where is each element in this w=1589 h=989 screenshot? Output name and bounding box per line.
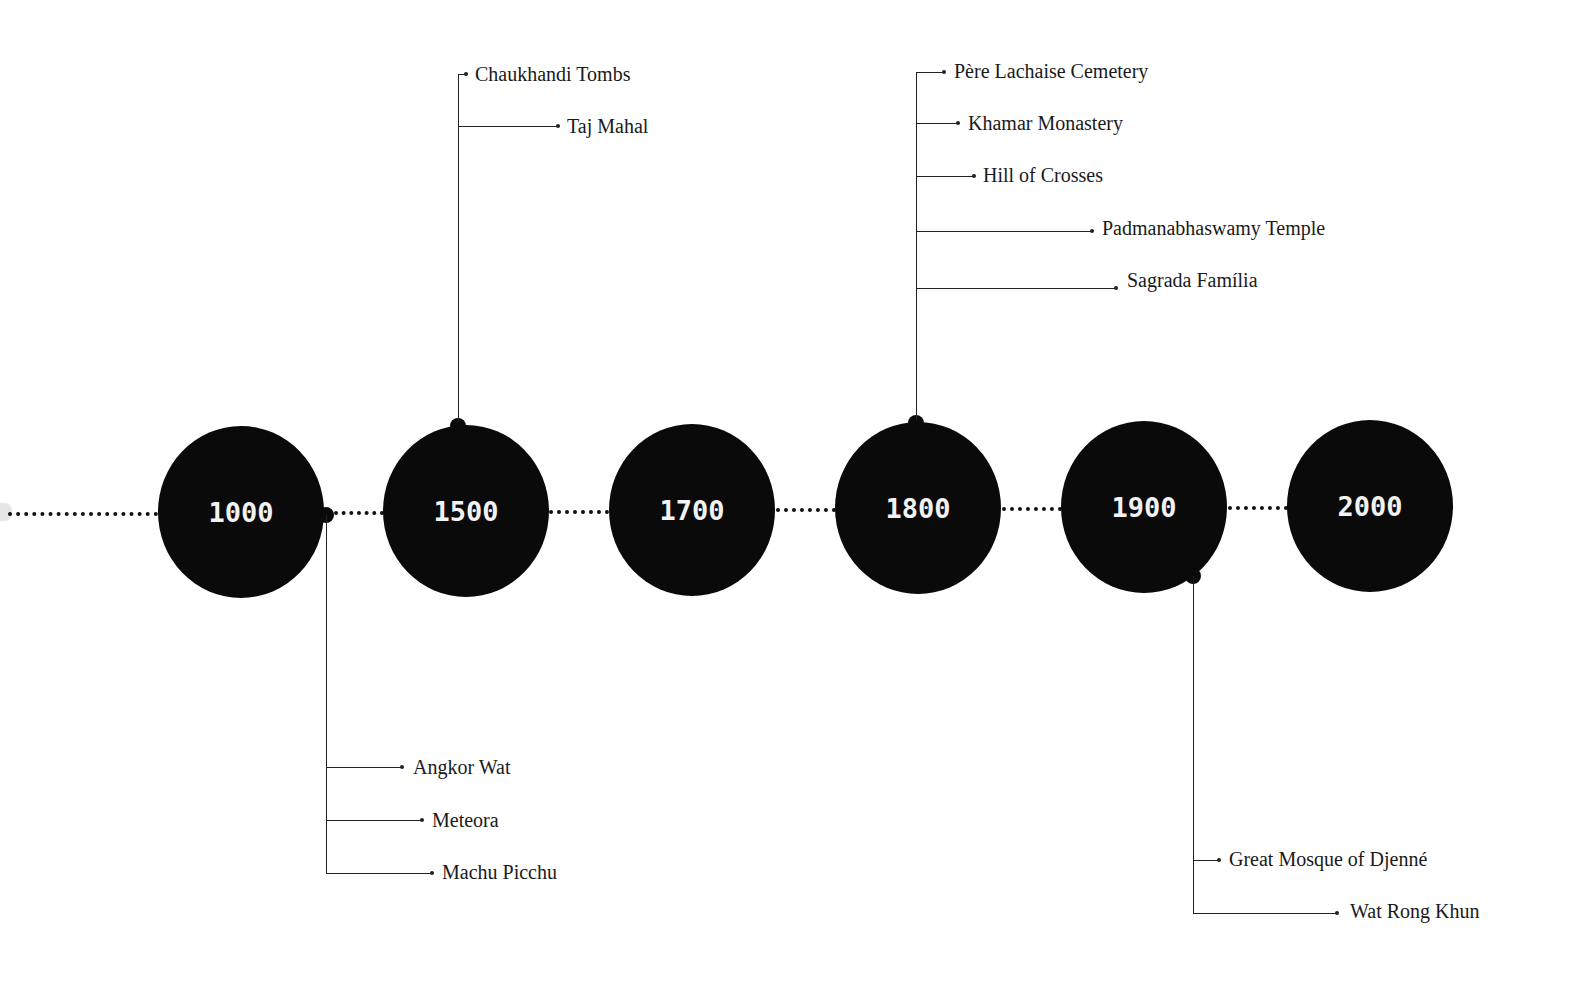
branch-connector xyxy=(916,176,974,177)
branch-tip xyxy=(942,70,946,74)
landmark-machu-picchu: Machu Picchu xyxy=(442,862,557,882)
timeline-node-1500[interactable]: 1500 xyxy=(383,425,549,597)
branch-connector xyxy=(916,123,958,124)
timeline-dots-start xyxy=(8,512,158,516)
year-label: 2000 xyxy=(1337,491,1402,522)
branch-connector xyxy=(1193,913,1337,914)
branch-tip xyxy=(420,818,424,822)
branch-tip xyxy=(400,765,404,769)
landmark-wat-rong-khun: Wat Rong Khun xyxy=(1350,901,1480,921)
timeline-dots-1500-1700 xyxy=(549,510,609,514)
branch-line-1900 xyxy=(1193,576,1194,914)
branch-tip xyxy=(1114,286,1118,290)
year-label: 1500 xyxy=(433,496,498,527)
timeline-dots-1700-1800 xyxy=(776,508,836,512)
branch-connector xyxy=(916,231,1092,232)
landmark-sagrada-familia: Sagrada Família xyxy=(1127,270,1258,290)
landmark-padmanabhaswamy: Padmanabhaswamy Temple xyxy=(1102,218,1325,238)
branch-connector xyxy=(1193,860,1219,861)
branch-connector xyxy=(326,820,422,821)
branch-tip xyxy=(1217,858,1221,862)
branch-tip xyxy=(956,121,960,125)
year-label: 1900 xyxy=(1111,492,1176,523)
landmark-angkor-wat: Angkor Wat xyxy=(413,757,510,777)
branch-connector xyxy=(326,767,402,768)
timeline-node-1800[interactable]: 1800 xyxy=(835,422,1001,594)
landmark-great-mosque-djenne: Great Mosque of Djenné xyxy=(1229,849,1427,869)
timeline-dots-1900-2000 xyxy=(1228,506,1288,510)
branch-line-1800 xyxy=(916,72,917,420)
branch-tip xyxy=(972,174,976,178)
landmark-pere-lachaise: Père Lachaise Cemetery xyxy=(954,61,1148,81)
timeline-node-1700[interactable]: 1700 xyxy=(609,424,775,596)
landmark-hill-of-crosses: Hill of Crosses xyxy=(983,165,1103,185)
landmark-khamar-monastery: Khamar Monastery xyxy=(968,113,1123,133)
timeline-node-1000[interactable]: 1000 xyxy=(158,426,324,598)
branch-tip xyxy=(1335,911,1339,915)
branch-connector xyxy=(458,126,558,127)
branch-tip xyxy=(556,124,560,128)
landmark-chaukhandi-tombs: Chaukhandi Tombs xyxy=(475,64,630,84)
branch-tip xyxy=(430,871,434,875)
timeline-dots-1800-1900 xyxy=(1002,507,1062,511)
branch-connector xyxy=(916,288,1116,289)
branch-connector xyxy=(916,72,944,73)
timeline-dots-1000-1500 xyxy=(334,511,384,515)
branch-connector xyxy=(326,873,432,874)
year-label: 1800 xyxy=(885,493,950,524)
landmark-taj-mahal: Taj Mahal xyxy=(567,116,648,136)
year-label: 1000 xyxy=(208,497,273,528)
timeline-node-1900[interactable]: 1900 xyxy=(1061,421,1227,593)
timeline-node-2000[interactable]: 2000 xyxy=(1287,420,1453,592)
branch-tip xyxy=(1090,229,1094,233)
landmark-meteora: Meteora xyxy=(432,810,499,830)
branch-tip xyxy=(464,72,468,76)
year-label: 1700 xyxy=(659,495,724,526)
